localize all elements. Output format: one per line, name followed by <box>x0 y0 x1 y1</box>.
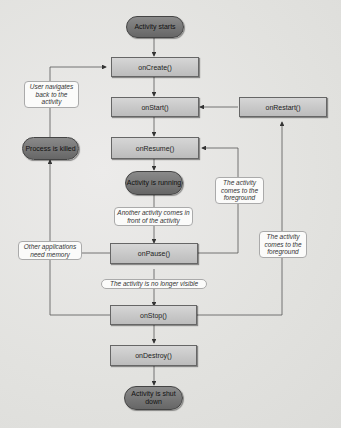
onresume-box: onResume() <box>111 137 199 159</box>
onstop-box: onStop() <box>110 305 197 325</box>
activity-running-state: Activity is running <box>125 171 183 195</box>
other-apps-memory-label: Other applications need memory <box>18 241 82 260</box>
another-activity-label: Another activity comes in front of the a… <box>114 207 193 226</box>
ondestroy-box: onDestroy() <box>110 345 197 366</box>
no-longer-visible-label: The activity is no longer visible <box>101 279 207 289</box>
foreground-resume-label: The activity comes to the foreground <box>215 177 264 204</box>
user-navigates-back-label: User navigates back to the activity <box>24 81 79 108</box>
onpause-box: onPause() <box>110 243 198 264</box>
process-killed-state: Process is killed <box>22 137 79 160</box>
onstart-box: onStart() <box>111 97 199 117</box>
onrestart-box: onRestart() <box>239 97 327 117</box>
activity-shut-down-state: Activity is shut down <box>124 386 183 410</box>
activity-starts-state: Activity starts <box>126 16 184 38</box>
foreground-restart-label: The activity comes to the foreground <box>259 231 307 258</box>
oncreate-box: onCreate() <box>111 57 199 77</box>
